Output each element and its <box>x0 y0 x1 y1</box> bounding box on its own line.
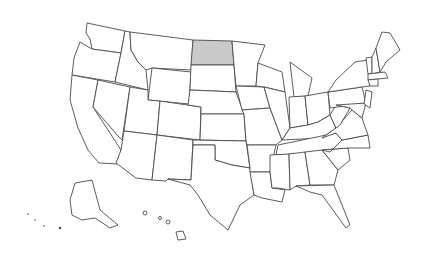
state-new-mexico: New Mexico <box>152 135 193 181</box>
state-maine: Maine <box>376 32 400 72</box>
hawaii-small-islands <box>143 211 170 224</box>
state-michigan: Michigan <box>290 62 312 97</box>
state-south-dakota: South Dakota <box>190 65 236 92</box>
state-colorado: Colorado <box>157 101 201 140</box>
state-hawaii: Hawaii <box>176 231 186 240</box>
state-connecticut: Connecticut <box>368 79 378 86</box>
state-north-dakota: North Dakota <box>191 40 234 65</box>
state-new-york: New York <box>328 60 370 92</box>
state-new-jersey: New Jersey <box>364 90 372 108</box>
us-states-map: WashingtonOregonCaliforniaIdahoNevadaMon… <box>0 0 421 258</box>
aleutian-islands <box>27 213 61 229</box>
state-mississippi: Mississippi <box>270 154 290 190</box>
state-wyoming: Wyoming <box>148 68 191 104</box>
state-kansas: Kansas <box>200 114 246 141</box>
state-florida: Florida <box>296 185 350 228</box>
states-layer: WashingtonOregonCaliforniaIdahoNevadaMon… <box>70 23 400 240</box>
state-alaska: Alaska <box>70 180 118 228</box>
